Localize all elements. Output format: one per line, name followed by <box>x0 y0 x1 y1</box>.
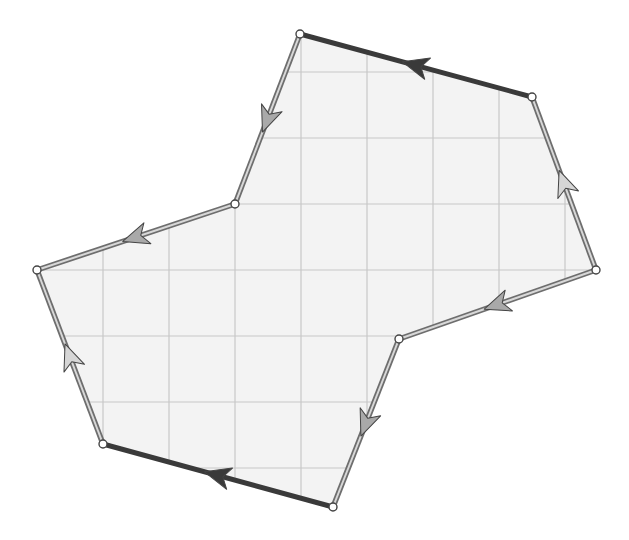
vertex-A <box>296 30 304 38</box>
vertex-F <box>99 440 107 448</box>
polygon-diagram <box>0 0 629 540</box>
vertex-G <box>33 266 41 274</box>
vertex-C <box>592 266 600 274</box>
vertex-E <box>329 503 337 511</box>
vertex-B <box>528 93 536 101</box>
vertex-H <box>231 200 239 208</box>
vertex-D <box>395 335 403 343</box>
